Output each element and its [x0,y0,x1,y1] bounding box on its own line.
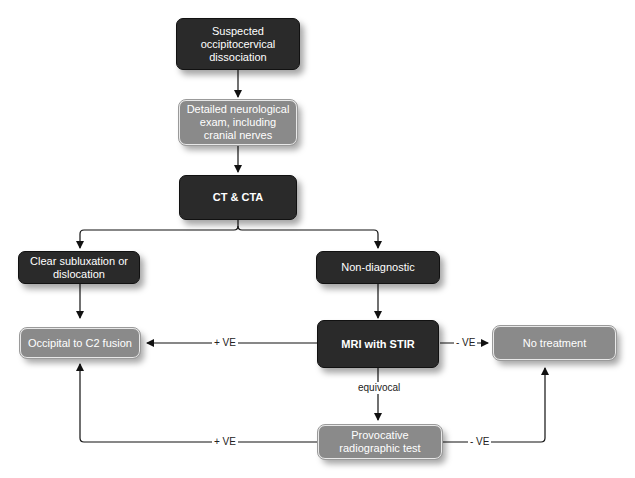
edge-label-equivocal: equivocal [356,382,402,394]
edge-label-mri-negative: - VE [454,337,477,349]
node-label: CT & CTA [213,191,264,204]
edge-label-mri-positive: + VE [212,337,238,349]
node-mri-stir: MRI with STIR [317,320,439,368]
node-provocative-test: Provocative radiographic test [318,425,442,459]
node-neuro-exam: Detailed neurological exam, including cr… [179,100,297,145]
node-label: MRI with STIR [341,338,414,351]
edge-label-provocative-positive: + VE [212,436,238,448]
node-ct-cta: CT & CTA [179,175,297,220]
node-label: Non-diagnostic [341,261,414,274]
node-occipital-fusion: Occipital to C2 fusion [20,328,140,358]
node-non-diagnostic: Non-diagnostic [316,251,440,284]
node-label: Clear subluxation or dislocation [25,255,133,281]
node-clear-subluxation: Clear subluxation or dislocation [18,251,140,284]
node-no-treatment: No treatment [493,326,616,360]
node-label: Provocative radiographic test [325,429,435,455]
node-label: Occipital to C2 fusion [28,337,132,350]
node-suspected: Suspected occipitocervical dissociation [176,18,300,70]
node-label: Suspected occipitocervical dissociation [183,25,293,64]
edge-label-provocative-negative: - VE [468,436,491,448]
node-label: No treatment [523,337,587,350]
connector-lines [0,0,635,478]
node-label: Detailed neurological exam, including cr… [186,103,290,142]
